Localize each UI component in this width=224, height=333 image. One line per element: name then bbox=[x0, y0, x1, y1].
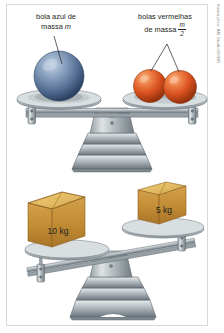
leader-line-red-right bbox=[167, 44, 179, 72]
balance-scales-artwork: 10 kg 5 kg bbox=[0, 0, 224, 333]
bottom-scale-base bbox=[70, 277, 156, 320]
bottom-balance-scale: 10 kg 5 kg bbox=[25, 182, 204, 320]
red-ball-left bbox=[134, 70, 167, 103]
label-red-balls: bolas vermelhas de massa m 2 bbox=[122, 12, 208, 37]
red-ball-right bbox=[164, 71, 197, 104]
top-balance-scale bbox=[17, 36, 207, 172]
label-blue-line2: massa bbox=[41, 22, 65, 31]
label-blue-symbol: m bbox=[65, 22, 71, 31]
fraction-denominator: 2 bbox=[178, 31, 185, 37]
top-scale-beam bbox=[26, 109, 198, 118]
label-red-line2: de massa bbox=[144, 26, 178, 35]
top-scale-base bbox=[72, 133, 152, 172]
box-10kg: 10 kg bbox=[28, 192, 85, 247]
label-red-line1: bolas vermelhas bbox=[138, 12, 192, 21]
illustration-credit: Ilustrações: AM Studio/ID/BR bbox=[213, 4, 223, 114]
illustration-figure: 10 kg 5 kg bola azul de massa m bolas ve… bbox=[0, 0, 224, 333]
fraction-m-over-2: m 2 bbox=[178, 22, 185, 36]
fraction-numerator: m bbox=[178, 22, 185, 28]
box-5kg: 5 kg bbox=[138, 182, 186, 224]
blue-ball bbox=[34, 51, 84, 102]
leader-line-red-left bbox=[151, 44, 167, 71]
label-blue-ball: bola azul de massa m bbox=[14, 12, 98, 33]
box-10kg-label: 10 kg bbox=[48, 226, 69, 236]
box-5kg-label: 5 kg bbox=[156, 205, 172, 215]
label-blue-line1: bola azul de bbox=[36, 12, 76, 21]
